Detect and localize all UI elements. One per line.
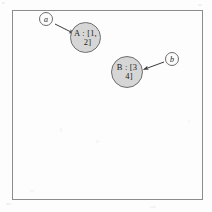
node-a-label-line-2: 2] (80, 38, 91, 47)
node-a[interactable]: A : [1, 2] (70, 22, 101, 53)
callout-marker-a[interactable]: a (39, 12, 53, 26)
diagram-canvas: A : [1, 2] B : [3 4] a b (0, 0, 212, 212)
node-b-label-line-2: 4] (121, 72, 132, 81)
node-b[interactable]: B : [3 4] (111, 56, 143, 88)
diagram-frame (12, 10, 203, 200)
callout-marker-b-label: b (170, 55, 174, 64)
callout-marker-a-label: a (44, 15, 48, 24)
callout-marker-b[interactable]: b (165, 52, 179, 66)
